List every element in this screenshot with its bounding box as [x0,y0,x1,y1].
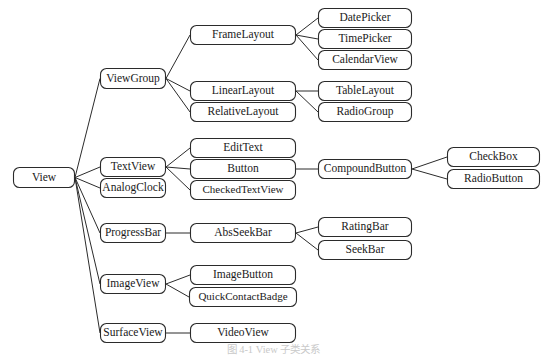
node-label-imageview: ImageView [107,277,161,290]
node-seekbar[interactable]: SeekBar [319,241,412,260]
node-label-progressbar: ProgressBar [105,226,161,239]
node-label-datepicker: DatePicker [339,11,390,23]
edge-imageview-to-imagebutton [166,275,190,284]
node-radiogroup[interactable]: RadioGroup [319,103,412,122]
node-label-timepicker: TimePicker [338,32,391,44]
edge-viewgroup-to-framelayout [166,35,190,79]
node-label-checkedtextview: CheckedTextView [202,183,283,195]
node-edittext[interactable]: EditText [191,139,296,158]
node-datepicker[interactable]: DatePicker [319,9,412,28]
edge-textview-to-edittext [166,148,190,167]
node-label-radiogroup: RadioGroup [337,105,394,118]
node-progressbar[interactable]: ProgressBar [101,224,166,243]
node-label-view: View [32,171,57,183]
node-ratingbar[interactable]: RatingBar [319,218,412,237]
edge-compoundbutton-to-radiobutton [412,169,447,179]
edge-linearlayout-to-radiogroup [296,91,318,112]
node-label-viewgroup: ViewGroup [106,72,160,85]
view-hierarchy-diagram: ViewViewGroupTextViewAnalogClockProgress… [0,0,547,357]
edge-viewgroup-to-relativelayout [166,79,190,113]
node-videoview[interactable]: VideoView [191,324,296,343]
node-button[interactable]: Button [191,160,296,179]
node-absseekbar[interactable]: AbsSeekBar [191,224,296,243]
node-linearlayout[interactable]: LinearLayout [191,82,296,101]
node-label-framelayout: FrameLayout [212,28,275,41]
edge-view-to-textview [75,167,100,178]
edge-absseekbar-to-ratingbar [296,227,318,233]
edge-view-to-progressbar [75,178,100,234]
node-label-analogclock: AnalogClock [102,181,164,194]
node-relativelayout[interactable]: RelativeLayout [191,103,296,122]
node-label-relativelayout: RelativeLayout [208,105,280,118]
node-radiobutton[interactable]: RadioButton [448,170,540,189]
node-imagebutton[interactable]: ImageButton [191,266,296,285]
edge-compoundbutton-to-checkbox [412,157,447,169]
node-label-button: Button [227,162,259,174]
edge-imageview-to-quickcontactbadge [166,284,189,297]
node-label-seekbar: SeekBar [346,243,385,255]
edge-viewgroup-to-linearlayout [166,79,190,92]
node-label-surfaceview: SurfaceView [103,326,163,338]
node-surfaceview[interactable]: SurfaceView [101,324,166,343]
edge-view-to-viewgroup [75,79,100,178]
node-label-absseekbar: AbsSeekBar [214,226,272,238]
edge-textview-to-checkedtextview [166,167,190,190]
node-analogclock[interactable]: AnalogClock [101,179,166,198]
node-label-linearlayout: LinearLayout [212,84,275,97]
node-checkbox[interactable]: CheckBox [448,148,540,167]
node-viewgroup[interactable]: ViewGroup [101,69,166,89]
node-checkedtextview[interactable]: CheckedTextView [191,181,296,200]
node-textview[interactable]: TextView [101,158,166,177]
node-imageview[interactable]: ImageView [101,275,166,294]
node-view[interactable]: View [14,168,75,188]
node-label-quickcontactbadge: QuickContactBadge [198,290,287,302]
edge-framelayout-to-datepicker [296,18,318,35]
node-timepicker[interactable]: TimePicker [319,30,412,49]
node-label-imagebutton: ImageButton [213,268,273,281]
node-framelayout[interactable]: FrameLayout [191,26,296,45]
node-quickcontactbadge[interactable]: QuickContactBadge [190,288,297,307]
edge-absseekbar-to-seekbar [296,233,318,250]
node-calendarview[interactable]: CalendarView [319,51,412,70]
node-label-calendarview: CalendarView [332,53,398,65]
node-label-textview: TextView [111,160,156,172]
edge-view-to-surfaceview [75,178,100,334]
node-label-tablelayout: TableLayout [336,84,395,97]
edge-view-to-imageview [75,178,100,285]
node-label-checkbox: CheckBox [469,150,518,162]
node-label-videoview: VideoView [217,326,269,338]
edge-textview-to-button [166,167,190,169]
figure-caption: 图 4-1 View 子类关系 [0,342,547,357]
nodes-layer: ViewViewGroupTextViewAnalogClockProgress… [14,9,540,343]
node-label-ratingbar: RatingBar [341,220,388,233]
node-compoundbutton[interactable]: CompoundButton [319,160,412,179]
hierarchy-canvas: ViewViewGroupTextViewAnalogClockProgress… [0,0,547,357]
node-label-radiobutton: RadioButton [464,172,523,184]
node-label-compoundbutton: CompoundButton [324,162,407,175]
node-label-edittext: EditText [223,141,263,153]
node-tablelayout[interactable]: TableLayout [319,82,412,101]
